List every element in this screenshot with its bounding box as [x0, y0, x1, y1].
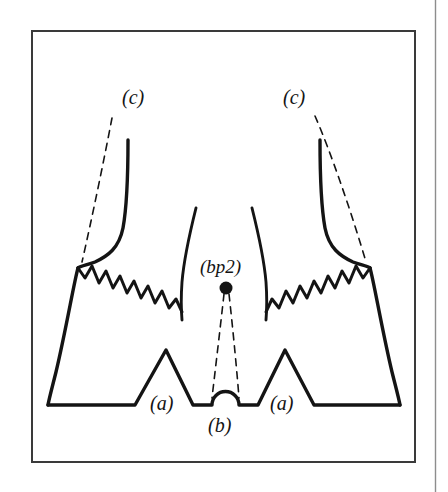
label-a-left: (a) [150, 392, 174, 415]
label-a-right: (a) [270, 392, 294, 415]
figure-root: (c) (c) (bp2) (a) (a) (b) [0, 0, 448, 492]
bp2-point-marker [220, 282, 233, 295]
label-c-left: (c) [122, 86, 145, 109]
label-bp2: (bp2) [200, 256, 241, 278]
label-c-right: (c) [283, 86, 306, 109]
label-b: (b) [208, 414, 232, 437]
diagram-canvas: (c) (c) (bp2) (a) (a) (b) [0, 0, 448, 492]
